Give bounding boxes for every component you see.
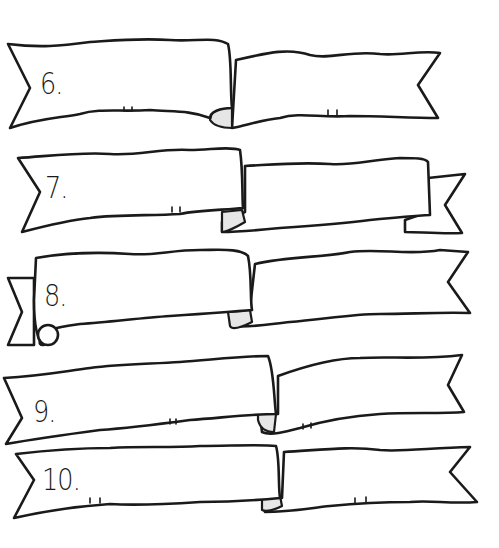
banner-8-left-tail — [8, 278, 34, 345]
banner-10 — [14, 445, 477, 518]
banner-9 — [4, 355, 464, 444]
banner-7-label: 7. — [45, 170, 68, 205]
banner-10-back-ribbon — [262, 447, 477, 512]
banner-7-back-ribbon — [222, 158, 430, 232]
banner-6-back-ribbon — [232, 51, 440, 128]
banner-9-label: 9. — [33, 394, 56, 429]
banner-6-label: 6. — [40, 66, 63, 101]
banner-6 — [8, 39, 440, 128]
banner-8 — [8, 250, 470, 345]
banner-8-back-ribbon — [232, 250, 470, 327]
banner-8-front — [34, 250, 252, 345]
banner-7 — [18, 148, 465, 233]
banner-9-back-ribbon — [260, 355, 464, 434]
banner-8-label: 8. — [44, 278, 67, 313]
banner-8-curl — [38, 325, 58, 345]
banner-10-label: 10. — [42, 462, 80, 497]
